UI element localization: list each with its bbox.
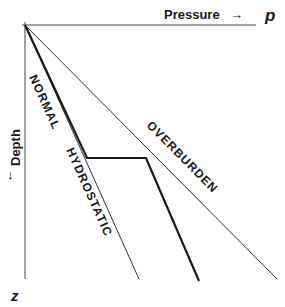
hydrostatic-label: HYDROSTATIC xyxy=(63,145,115,238)
normal-label: NORMAL xyxy=(26,72,63,131)
pressure-depth-diagram: Pressure → p ↓ Depth z NORMAL HYDROSTATI… xyxy=(0,0,285,307)
overburden-line xyxy=(25,25,277,279)
depth-arrow-icon: ↓ xyxy=(7,167,14,182)
pressure-symbol: p xyxy=(264,6,275,25)
pressure-arrow-icon: → xyxy=(230,7,243,22)
depth-label: Depth xyxy=(8,129,23,166)
depth-symbol: z xyxy=(10,287,19,304)
pressure-label: Pressure xyxy=(164,7,220,22)
